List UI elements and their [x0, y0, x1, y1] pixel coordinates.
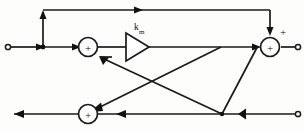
- summing-junction-left-sign: +: [85, 42, 91, 54]
- amplifier-gain-subscript: m: [139, 28, 145, 36]
- diagonal-up-right-wire: [222, 48, 257, 115]
- top-wire-arrowhead-icon: [134, 7, 143, 14]
- bottom-junction-dot: [220, 112, 224, 116]
- bottom-output-arrowhead-icon: [14, 110, 24, 118]
- left-riser-arrowhead-icon: [40, 10, 47, 19]
- signal-flow-diagram: + + + + k m: [0, 0, 305, 130]
- summing-junction-right-external-sign: +: [280, 26, 286, 38]
- right-drop-arrowhead-icon: [267, 27, 274, 36]
- summing-junction-right-sign: +: [267, 42, 273, 54]
- amplifier-block: [126, 33, 149, 61]
- diagram-canvas: + + + + k m: [0, 0, 305, 130]
- input-terminal-port: [5, 44, 10, 49]
- bottom-adder-input-arrowhead-icon: [116, 110, 126, 118]
- bottom-terminal-port: [295, 111, 300, 116]
- input-junction-dot: [41, 45, 46, 50]
- diagonal-down-left-wire: [94, 47, 221, 110]
- output-terminal-port: [295, 44, 300, 49]
- bottom-rail-arrowhead-icon: [238, 109, 246, 120]
- diagonal-feedback-wire: [102, 58, 222, 114]
- summing-junction-bottom-sign: +: [85, 109, 91, 121]
